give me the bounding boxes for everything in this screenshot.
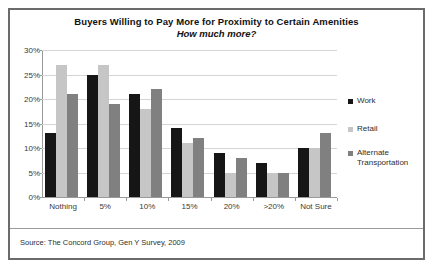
bar-group xyxy=(211,49,253,197)
x-axis-tickmark xyxy=(253,198,254,201)
bar xyxy=(214,153,225,197)
chart-subtitle: How much more? xyxy=(10,28,423,40)
bar xyxy=(182,143,193,197)
bar xyxy=(236,158,247,197)
x-axis-tickmark xyxy=(84,198,85,201)
x-axis-tick-label: 5% xyxy=(84,202,126,211)
bar xyxy=(56,65,67,197)
x-axis-tick-label: Nothing xyxy=(42,202,84,211)
bar xyxy=(98,65,109,197)
bar xyxy=(193,138,204,197)
bar xyxy=(267,173,278,198)
y-axis-tick-label: 30% xyxy=(12,46,40,55)
bar xyxy=(45,133,56,197)
bar-group xyxy=(126,49,168,197)
bar xyxy=(87,75,98,198)
legend-swatch-icon xyxy=(348,151,353,156)
bar xyxy=(256,163,267,197)
x-axis-tickmark xyxy=(337,198,338,201)
y-axis-tick-label: 20% xyxy=(12,95,40,104)
bar-group xyxy=(42,49,84,197)
bar xyxy=(67,94,78,197)
legend-item[interactable]: Retail xyxy=(348,124,377,134)
legend-swatch-icon xyxy=(348,127,353,132)
title-block: Buyers Willing to Pay More for Proximity… xyxy=(10,16,423,40)
x-axis-tick-label: >20% xyxy=(253,202,295,211)
bar-group xyxy=(84,49,126,197)
y-axis-tick-label: 15% xyxy=(12,119,40,128)
bar xyxy=(298,148,309,197)
y-axis-ticks: 0%5%10%15%20%25%30% xyxy=(10,50,40,198)
page-title: Buyers Willing to Pay More for Proximity… xyxy=(10,16,423,28)
y-axis-tick-label: 25% xyxy=(12,70,40,79)
bar xyxy=(225,173,236,198)
bar xyxy=(129,94,140,197)
legend-item[interactable]: Alternate Transportation xyxy=(348,148,424,168)
bar xyxy=(309,148,320,197)
x-axis-tick-label: Not Sure xyxy=(295,202,337,211)
source-note: Source: The Concord Group, Gen Y Survey,… xyxy=(20,238,185,247)
plot-area xyxy=(42,50,337,198)
bar xyxy=(140,109,151,197)
bar-group xyxy=(168,49,210,197)
y-axis-tick-label: 0% xyxy=(12,193,40,202)
y-axis-tick-label: 10% xyxy=(12,144,40,153)
x-axis-tickmark xyxy=(211,198,212,201)
x-axis-tickmark xyxy=(295,198,296,201)
bar xyxy=(320,133,331,197)
x-axis-line xyxy=(42,197,337,198)
footer-divider xyxy=(10,228,423,229)
legend-item[interactable]: Work xyxy=(348,96,376,106)
bar-group xyxy=(253,49,295,197)
bar-group xyxy=(295,49,337,197)
bar xyxy=(171,128,182,197)
x-axis-tickmark xyxy=(126,198,127,201)
x-axis-tickmark xyxy=(168,198,169,201)
legend-label: Retail xyxy=(357,124,377,134)
x-axis-tick-label: 20% xyxy=(211,202,253,211)
bar xyxy=(151,89,162,197)
legend-label: Work xyxy=(357,96,376,106)
chart-figure: Buyers Willing to Pay More for Proximity… xyxy=(8,8,425,260)
x-axis-tick-label: 15% xyxy=(168,202,210,211)
bar xyxy=(278,173,289,198)
x-axis-tick-label: 10% xyxy=(126,202,168,211)
y-axis-tick-label: 5% xyxy=(12,168,40,177)
legend-label: Alternate Transportation xyxy=(357,148,424,168)
bar xyxy=(109,104,120,197)
legend-swatch-icon xyxy=(348,99,353,104)
